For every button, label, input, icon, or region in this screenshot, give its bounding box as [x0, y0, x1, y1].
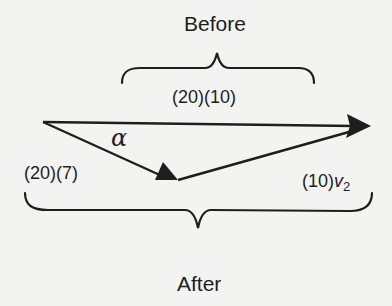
after-momentum-2-mass: (10) [302, 171, 334, 191]
vector-drawing [0, 0, 392, 306]
before-brace [122, 53, 314, 83]
before-heading: Before [184, 13, 246, 34]
after-momentum-2-velocity-var: v [334, 171, 343, 191]
angle-alpha-label: α [111, 126, 127, 150]
after-momentum-2-label: (10)v2 [302, 172, 350, 190]
after-momentum-1-label: (20)(7) [24, 164, 78, 182]
before-momentum-label: (20)(10) [172, 88, 236, 106]
after-1-arrowhead-icon [155, 162, 178, 180]
after-heading: After [177, 273, 221, 294]
momentum-vector-diagram: Before (20)(10) α (20)(7) (10)v2 After [0, 0, 392, 306]
before-momentum-vector [43, 122, 354, 126]
after-momentum-2-subscript: 2 [343, 179, 350, 194]
after-brace [25, 193, 372, 228]
